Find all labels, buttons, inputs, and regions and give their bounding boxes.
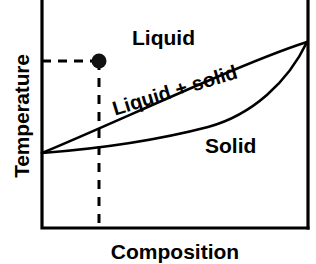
state-point-marker: [92, 54, 107, 69]
x-axis-title: Composition: [42, 240, 308, 264]
region-label-solid: Solid: [205, 134, 256, 158]
region-label-liquid: Liquid: [132, 26, 195, 50]
y-axis-title: Temperature: [10, 16, 34, 216]
